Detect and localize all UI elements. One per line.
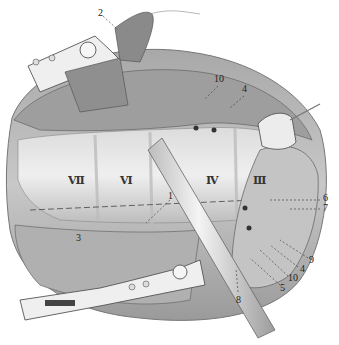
callout-10-top: 10: [214, 74, 224, 84]
callout-4-top: 4: [242, 84, 247, 94]
callout-9: 9: [309, 255, 314, 265]
rib-label-vii: Ⅶ: [68, 175, 84, 186]
rib-label-iv: Ⅳ: [206, 175, 218, 186]
callout-10-bottom: 10: [288, 273, 298, 283]
surgical-illustration: [0, 0, 339, 345]
callout-5: 5: [280, 283, 285, 293]
callout-1: 1: [168, 191, 173, 201]
rib-label-vi: Ⅵ: [120, 175, 132, 186]
callout-2: 2: [98, 8, 103, 18]
rib-label-iii: Ⅲ: [253, 175, 266, 186]
callout-7: 7: [323, 203, 328, 213]
callout-4-bottom: 4: [300, 264, 305, 274]
callout-3: 3: [76, 233, 81, 243]
retractor-right: [258, 113, 296, 149]
callout-8: 8: [236, 295, 241, 305]
